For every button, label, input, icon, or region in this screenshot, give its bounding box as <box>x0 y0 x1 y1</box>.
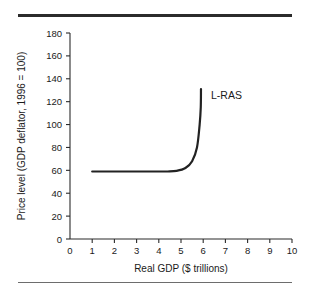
x-tick-label: 7 <box>223 245 228 256</box>
series-group <box>92 89 201 171</box>
x-tick-label: 1 <box>90 245 95 256</box>
x-tick-label: 3 <box>134 245 139 256</box>
x-tick-label-group: 012345678910 <box>67 245 297 256</box>
x-tick-group <box>92 239 292 243</box>
x-tick-label: 0 <box>67 245 72 256</box>
x-tick-label: 4 <box>156 245 161 256</box>
chart-plot-area: 020406080100120140160180 012345678910 L-… <box>0 0 310 297</box>
lras-series-label: L-RAS <box>211 89 242 101</box>
y-axis-title: Price level (GDP deflator, 1996 = 100) <box>16 52 27 221</box>
x-tick-label: 5 <box>178 245 183 256</box>
y-axis-group: 020406080100120140160180 <box>46 28 70 245</box>
x-tick-label: 8 <box>245 245 250 256</box>
lras-curve-path <box>92 89 201 171</box>
y-tick-group <box>66 33 70 239</box>
y-tick-label: 160 <box>46 50 62 61</box>
y-tick-label: 20 <box>51 211 62 222</box>
y-tick-label: 100 <box>46 119 62 130</box>
y-tick-label: 180 <box>46 28 62 39</box>
y-tick-label-group: 020406080100120140160180 <box>46 28 62 245</box>
bottom-divider-rule <box>18 282 292 283</box>
x-tick-label: 10 <box>287 245 298 256</box>
y-tick-label: 60 <box>51 165 62 176</box>
x-tick-label: 6 <box>201 245 206 256</box>
x-axis-title: Real GDP ($ trillions) <box>134 263 228 274</box>
y-tick-label: 40 <box>51 188 62 199</box>
x-tick-label: 2 <box>112 245 117 256</box>
x-tick-label: 9 <box>267 245 272 256</box>
y-tick-label: 140 <box>46 73 62 84</box>
y-tick-label: 0 <box>57 234 62 245</box>
y-tick-label: 80 <box>51 142 62 153</box>
figure-container: 020406080100120140160180 012345678910 L-… <box>0 0 310 297</box>
x-axis-group: 012345678910 <box>67 239 297 256</box>
y-tick-label: 120 <box>46 96 62 107</box>
